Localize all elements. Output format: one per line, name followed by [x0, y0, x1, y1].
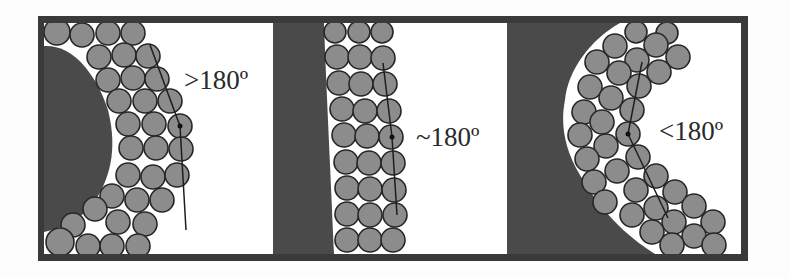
- angle-label-flat: ~180º: [416, 122, 479, 152]
- frame-right: [741, 16, 748, 261]
- angle-vertex: [178, 124, 183, 129]
- angle-vertex: [626, 132, 631, 137]
- angle-label-concave: <180º: [659, 116, 723, 146]
- frame-bottom: [38, 254, 748, 261]
- particle-column: [324, 21, 407, 252]
- angle-label-convex: >180º: [184, 65, 248, 95]
- frame-top: [38, 16, 748, 23]
- frame-left: [38, 16, 44, 261]
- contact-angle-diagram: >180º: [0, 0, 790, 278]
- angle-vertex: [390, 135, 395, 140]
